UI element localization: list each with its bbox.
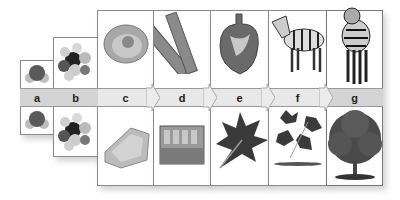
zebra-side-icon <box>268 8 328 76</box>
label-g: g <box>326 90 383 106</box>
label-a: a <box>20 90 54 106</box>
organic-molecule-icon <box>57 42 93 82</box>
tree-icon <box>326 106 384 182</box>
leaf-icon <box>212 110 268 172</box>
plant-cell-icon <box>101 122 151 170</box>
animal-cell-icon <box>101 22 151 67</box>
organic-molecule-icon <box>57 112 93 152</box>
water-molecule-icon <box>25 63 49 85</box>
label-e: e <box>210 90 269 106</box>
heart-icon <box>216 12 262 76</box>
label-f: f <box>268 90 327 106</box>
branch-icon <box>272 108 324 170</box>
label-d: d <box>153 90 211 106</box>
muscle-tissue-icon <box>154 12 210 74</box>
label-c: c <box>97 90 154 106</box>
water-molecule-icon <box>25 109 49 131</box>
zebra-front-icon <box>336 6 376 86</box>
plant-tissue-icon <box>158 122 206 168</box>
label-b: b <box>53 90 98 106</box>
